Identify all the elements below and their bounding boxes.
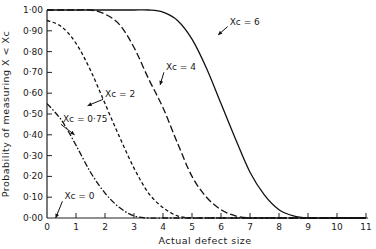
y-tick-label: 1·00: [23, 5, 43, 15]
y-tick-label: 0·30: [23, 151, 43, 161]
y-tick-label: 0·80: [23, 47, 43, 57]
curve-annotation: Xc = 6: [230, 17, 260, 27]
y-tick-label: 0·20: [23, 171, 43, 181]
x-tick-label: 10: [331, 222, 343, 232]
y-tick-label: 0·60: [23, 88, 43, 98]
y-tick-label: 0·00: [23, 213, 43, 223]
x-tick-label: 6: [218, 222, 224, 232]
y-tick-label: 0·40: [23, 130, 43, 140]
x-tick-label: 1: [73, 222, 79, 232]
x-tick-label: 4: [160, 222, 166, 232]
probability-chart: 012345678910110·000·100·200·300·400·500·…: [0, 0, 376, 249]
x-tick-label: 3: [131, 222, 137, 232]
annotations: Xc = 6Xc = 4Xc = 2Xc = 0·75Xc = 0: [55, 17, 260, 218]
x-tick-label: 2: [102, 222, 108, 232]
y-tick-label: 0·90: [23, 26, 43, 36]
x-tick-label: 0: [44, 222, 50, 232]
y-tick-label: 0·50: [23, 109, 43, 119]
curve-annotation: Xc = 2: [105, 89, 135, 99]
y-axis-title: Probability of measuring X < Xc: [0, 31, 11, 198]
x-tick-label: 5: [189, 222, 195, 232]
y-tick-label: 0·70: [23, 67, 43, 77]
x-tick-label: 8: [276, 222, 282, 232]
curve-annotation: Xc = 0·75: [63, 114, 107, 124]
y-tick-label: 0·10: [23, 192, 43, 202]
x-axis-title: Actual defect size: [158, 235, 251, 246]
x-tick-label: 9: [305, 222, 311, 232]
curve-annotation: Xc = 4: [166, 62, 196, 72]
curve-annotation: Xc = 0: [64, 191, 94, 201]
x-tick-label: 11: [360, 222, 371, 232]
x-tick-label: 7: [247, 222, 253, 232]
